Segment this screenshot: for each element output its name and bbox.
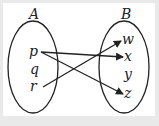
arrow-r-to-w [43,41,121,87]
mapping-diagram: A B p q r w x y z [0,0,159,126]
arrow-p-to-x [41,52,123,57]
set-a-label: A [27,6,39,22]
element-q: q [30,61,39,77]
arrow-p-to-z [41,52,123,94]
element-r: r [30,78,38,94]
element-x: x [124,48,132,64]
element-y: y [123,66,133,82]
element-p: p [29,43,38,59]
element-z: z [123,85,132,101]
set-b-label: B [120,6,131,22]
element-w: w [122,31,134,47]
